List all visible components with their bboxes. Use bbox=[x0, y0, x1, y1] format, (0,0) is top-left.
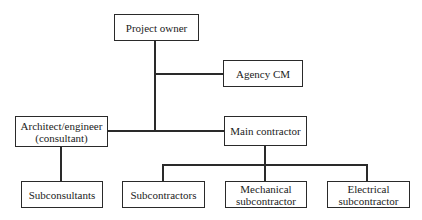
connector-owner-trunk bbox=[154, 40, 156, 131]
node-subcontractors: Subcontractors bbox=[122, 181, 205, 208]
node-label: Architect/engineer (consultant) bbox=[21, 120, 103, 144]
node-label: Project owner bbox=[126, 22, 187, 34]
connector-architect-down bbox=[60, 146, 62, 181]
node-agency-cm: Agency CM bbox=[223, 60, 303, 87]
connector-subcontractors-drop bbox=[162, 164, 164, 181]
node-architect-engineer: Architect/engineer (consultant) bbox=[15, 116, 108, 147]
node-label: Agency CM bbox=[236, 68, 290, 80]
connector-agency-cm bbox=[155, 73, 223, 75]
node-label: Subcontractors bbox=[131, 189, 197, 201]
node-main-contractor: Main contractor bbox=[224, 116, 307, 146]
connector-subcontractor-bus bbox=[162, 164, 368, 166]
connector-electrical-drop bbox=[366, 164, 368, 181]
node-subconsultants: Subconsultants bbox=[21, 181, 103, 208]
node-project-owner: Project owner bbox=[114, 14, 199, 41]
node-label: Electrical subcontractor bbox=[339, 183, 399, 207]
org-chart: Project owner Agency CM Architect/engine… bbox=[0, 0, 422, 220]
connector-architect-main bbox=[107, 130, 224, 132]
node-electrical-subcontractor: Electrical subcontractor bbox=[327, 181, 410, 208]
connector-main-down bbox=[264, 145, 266, 181]
node-label: Mechanical subcontractor bbox=[236, 183, 296, 207]
node-mechanical-subcontractor: Mechanical subcontractor bbox=[225, 181, 307, 208]
node-label: Subconsultants bbox=[29, 189, 96, 201]
node-label: Main contractor bbox=[230, 125, 301, 137]
